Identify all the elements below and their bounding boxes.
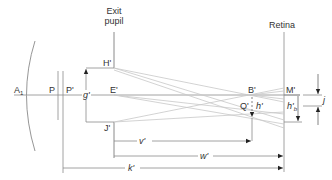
rays	[114, 68, 284, 128]
label-b-prime: B'	[248, 85, 256, 95]
label-hb-prime: h'b	[287, 101, 297, 114]
label-e-prime: E'	[110, 85, 118, 95]
label-p-prime: P'	[66, 85, 74, 95]
label-v-prime: v'	[139, 136, 145, 146]
label-w-prime: w'	[200, 151, 208, 161]
label-j: j	[323, 95, 325, 105]
exit-pupil-line1: Exit	[98, 6, 130, 16]
label-a1: A1	[14, 85, 23, 98]
cornea-arc	[27, 41, 36, 151]
label-g-prime: g'	[82, 90, 91, 100]
label-a1-sub: 1	[20, 90, 23, 96]
exit-pupil-line2: pupil	[98, 16, 130, 26]
label-hb-sub: b	[294, 106, 297, 112]
label-hb-prime-text: h'	[287, 101, 294, 111]
label-p: P	[49, 85, 55, 95]
label-h-prime-dim: h'	[256, 101, 263, 111]
label-m-prime: M'	[286, 85, 295, 95]
label-q-prime: Q'	[240, 101, 249, 111]
label-j-prime: J'	[104, 123, 110, 133]
retina-heading: Retina	[269, 20, 295, 30]
exit-pupil-heading: Exit pupil	[98, 6, 130, 26]
label-k-prime: k'	[128, 163, 134, 173]
label-h-prime: H'	[103, 58, 111, 68]
